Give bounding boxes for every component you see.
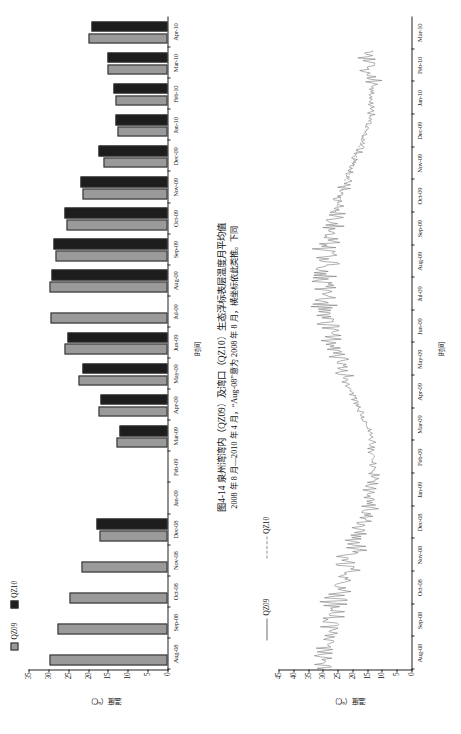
x-axis-tick-mark (411, 178, 414, 179)
bar-group (28, 420, 167, 451)
y-axis-tick-mark (278, 669, 279, 672)
x-axis-tick-mark (411, 80, 414, 81)
x-axis-tick-mark (411, 113, 414, 114)
bar-qz10 (91, 21, 167, 32)
x-axis-tick-mark (411, 374, 414, 375)
x-axis-tick-label: Jan-10 (171, 117, 178, 133)
x-axis-tick-label: Jul-09 (171, 304, 178, 319)
x-axis-tick-label: Oct-08 (415, 579, 422, 596)
x-axis-tick-label: Nov-09 (171, 178, 178, 197)
bar-chart-x-axis-title: 时间 (190, 341, 201, 355)
figure-caption: 图4-14 泉州湾湾内（QZ09）及湾口（QZ10）生态浮标表层温度月平均值 2… (214, 0, 240, 734)
x-axis-tick-label: Jun-09 (415, 318, 422, 334)
bar-group (28, 171, 167, 202)
bar-qz10 (64, 207, 167, 218)
legend-item-qz10: QZ10 (10, 580, 18, 608)
x-axis-tick-label: Jan-09 (415, 481, 422, 497)
bar-qz09 (57, 623, 167, 634)
x-axis-tick-mark (411, 537, 414, 538)
x-axis-tick-label: Feb-09 (415, 448, 422, 465)
bar-chart-block: QZ09 QZ10 温度（℃） 05101520253035Aug-08Sep-… (10, 10, 206, 710)
x-axis-tick-label: Oct-09 (415, 187, 422, 204)
legend-swatch-square-icon (10, 642, 18, 650)
bar-qz10 (98, 145, 167, 156)
x-axis-tick-label: Sep-09 (171, 241, 178, 258)
line-chart-legend: QZ09 QZ10 (262, 516, 270, 640)
bar-qz09 (49, 654, 167, 665)
line-chart-plot-area: 051015202530354045Aug-08Sep-08Oct-08Nov-… (278, 16, 412, 670)
bar-group (28, 514, 167, 545)
bar-qz10 (96, 518, 167, 529)
x-axis-tick-label: Mar-09 (415, 415, 422, 433)
x-axis-tick-mark (411, 244, 414, 245)
x-axis-tick-label: Sep-09 (415, 220, 422, 237)
x-axis-tick-mark (411, 505, 414, 506)
bar-group (28, 358, 167, 389)
x-axis-tick-label: Sep-08 (171, 614, 178, 631)
y-axis-tick-mark (367, 669, 368, 672)
x-axis-tick-mark (411, 472, 414, 473)
x-axis-tick-mark (411, 309, 414, 310)
bar-qz09 (50, 312, 167, 323)
x-axis-tick-label: Aug-08 (171, 644, 178, 663)
bar-group (28, 607, 167, 638)
bar-qz10 (80, 176, 167, 187)
legend-label: QZ10 (10, 580, 18, 597)
bar-qz09 (88, 33, 167, 44)
bar-qz10 (119, 425, 167, 436)
bar-group (28, 327, 167, 358)
bar-qz10 (100, 394, 167, 405)
x-axis-tick-label: Feb-10 (171, 85, 178, 102)
line-chart-y-axis-title: 温度（℃） (318, 697, 378, 708)
x-axis-tick-mark (411, 48, 414, 49)
bar-qz10 (113, 83, 167, 94)
bar-group (28, 203, 167, 234)
x-axis-tick-label: May-09 (415, 349, 422, 368)
bar-group (28, 109, 167, 140)
bar-group (28, 78, 167, 109)
bar-group (28, 482, 167, 513)
x-axis-tick-label: May-09 (171, 364, 178, 383)
bar-qz09 (99, 530, 167, 541)
figure-page: QZ09 QZ10 温度（℃） 05101520253035Aug-08Sep-… (0, 0, 461, 734)
x-axis-tick-label: Dec-09 (415, 121, 422, 139)
y-axis-tick-mark (337, 669, 338, 672)
rotated-page-sheet: QZ09 QZ10 温度（℃） 05101520253035Aug-08Sep-… (0, 0, 461, 734)
bar-qz09 (107, 64, 167, 75)
bar-qz09 (55, 250, 167, 261)
x-axis-tick-label: Aug-09 (415, 252, 422, 271)
bar-qz09 (81, 561, 167, 572)
x-axis-tick-label: Aug-09 (171, 271, 178, 290)
x-axis-tick-label: Dec-08 (171, 520, 178, 538)
x-axis-tick-label: Jan-10 (415, 90, 422, 106)
bar-qz09 (49, 281, 167, 292)
x-axis-tick-label: Dec-08 (415, 513, 422, 531)
legend-item-qz10: QZ10 (262, 516, 270, 558)
x-axis-tick-label: Apr-09 (415, 383, 422, 400)
y-axis-tick-mark (396, 669, 397, 672)
x-axis-tick-label: Apr-09 (171, 396, 178, 413)
x-axis-tick-mark (411, 342, 414, 343)
legend-solid-line-icon (266, 618, 267, 640)
x-axis-tick-label: Mar-10 (415, 23, 422, 41)
x-axis-tick-label: Aug-08 (415, 643, 422, 662)
bar-group (28, 265, 167, 296)
x-axis-tick-label: Feb-10 (415, 56, 422, 73)
x-axis-tick-mark (411, 211, 414, 212)
bar-group (28, 16, 167, 47)
legend-item-qz09: QZ09 (262, 598, 270, 640)
y-axis-tick-mark (308, 669, 309, 672)
legend-label: QZ09 (262, 598, 270, 615)
bar-group (28, 638, 167, 669)
line-chart-x-axis-title: 时间 (434, 341, 445, 355)
line-chart-series-svg (278, 16, 411, 669)
bar-qz10 (51, 269, 167, 280)
x-axis-tick-mark (411, 146, 414, 147)
bar-qz09 (66, 219, 167, 230)
x-axis-tick-label: Sep-08 (415, 611, 422, 628)
x-axis-tick-label: Oct-08 (171, 583, 178, 600)
x-axis-tick-label: Nov-08 (415, 545, 422, 564)
bar-qz09 (78, 375, 167, 386)
bar-chart-plot-area: 05101520253035Aug-08Sep-08Oct-08Nov-08De… (28, 16, 168, 670)
x-axis-tick-mark (411, 570, 414, 571)
